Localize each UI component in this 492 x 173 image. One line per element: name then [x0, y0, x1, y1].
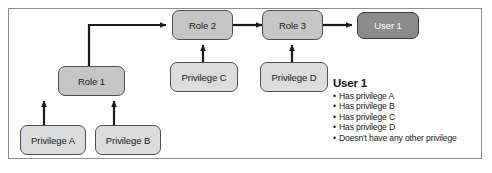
node-role-2-label: Role 2 — [189, 20, 216, 31]
legend-item-label: Has privilege C — [339, 112, 395, 122]
edge-role-1-to-role-2 — [89, 25, 166, 66]
node-role-3[interactable]: Role 3 — [262, 10, 323, 40]
legend-item: • Doesn't have any other privilege — [333, 133, 485, 143]
node-privilege-c-label: Privilege C — [182, 72, 227, 83]
user-summary-legend: User 1 • Has privilege A • Has privilege… — [333, 77, 485, 143]
legend-item: • Has privilege B — [333, 101, 485, 111]
legend-item-label: Has privilege B — [339, 101, 395, 111]
node-role-2[interactable]: Role 2 — [172, 10, 233, 40]
node-role-1-label: Role 1 — [78, 76, 105, 87]
node-privilege-c[interactable]: Privilege C — [170, 62, 238, 92]
node-privilege-d-label: Privilege D — [272, 72, 317, 83]
node-privilege-a[interactable]: Privilege A — [20, 125, 86, 155]
legend-item-label: Has privilege A — [339, 91, 394, 101]
node-user-1-label: User 1 — [374, 20, 401, 31]
diagram-figure: Role 2 Role 3 User 1 Role 1 Privilege C … — [0, 0, 492, 173]
legend-item: • Has privilege A — [333, 91, 485, 101]
node-privilege-b-label: Privilege B — [106, 135, 150, 146]
legend-item: • Has privilege C — [333, 112, 485, 122]
legend-item-label: Doesn't have any other privilege — [339, 133, 457, 143]
node-role-3-label: Role 3 — [279, 20, 306, 31]
node-privilege-b[interactable]: Privilege B — [95, 125, 161, 155]
node-privilege-d[interactable]: Privilege D — [260, 62, 328, 92]
legend-title: User 1 — [333, 77, 485, 90]
legend-item: • Has privilege D — [333, 122, 485, 132]
node-privilege-a-label: Privilege A — [31, 135, 75, 146]
node-user-1[interactable]: User 1 — [357, 12, 419, 39]
node-role-1[interactable]: Role 1 — [58, 66, 125, 96]
legend-item-label: Has privilege D — [339, 122, 395, 132]
